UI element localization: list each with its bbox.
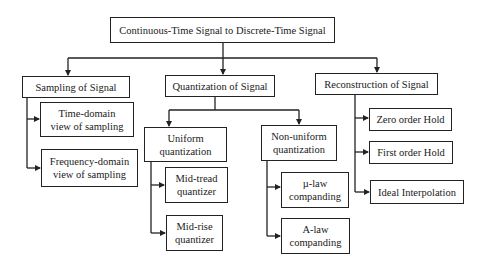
sampling-node: Sampling of Signal [22, 76, 130, 98]
ideal-interpolation-node: Ideal Interpolation [370, 180, 464, 204]
first-order-hold-node: First order Hold [369, 141, 453, 164]
nonuniform-quantization-node: Non-uniform quantization [261, 125, 337, 161]
a-law-node: A-law companding [281, 218, 350, 254]
quantization-node: Quantization of Signal [165, 75, 275, 97]
frequency-domain-node: Frequency-domain view of sampling [41, 149, 138, 187]
zero-order-hold-node: Zero order Hold [369, 108, 452, 131]
uniform-quantization-node: Uniform quantization [144, 127, 227, 162]
mid-rise-node: Mid-rise quantizer [166, 215, 223, 251]
time-domain-node: Time-domain view of sampling [40, 102, 134, 137]
root-node: Continuous-Time Signal to Discrete-Time … [110, 17, 335, 43]
reconstruction-node: Reconstruction of Signal [315, 73, 438, 95]
mu-law-node: µ-law companding [281, 172, 349, 208]
mid-tread-node: Mid-tread quantizer [165, 167, 228, 203]
